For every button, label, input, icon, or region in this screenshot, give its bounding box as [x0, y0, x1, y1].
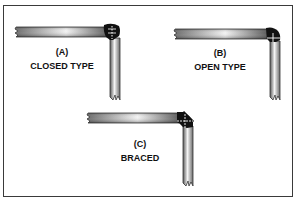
panel-c-letter: (C) [100, 139, 180, 150]
horizontal-member [15, 27, 108, 37]
panel-a-letter: (A) [22, 47, 102, 58]
panel-b-letter: (B) [180, 48, 260, 59]
panel-c-label: (C) BRACED [100, 139, 180, 164]
corner-joints-diagram [0, 0, 299, 205]
panel-b-label: (B) OPEN TYPE [180, 48, 260, 73]
vertical-member [110, 38, 120, 100]
panel-a-caption: CLOSED TYPE [22, 61, 102, 72]
closed-joint [104, 24, 120, 40]
horizontal-member [174, 29, 267, 39]
panel-a-label: (A) CLOSED TYPE [22, 47, 102, 72]
braced-joint [177, 112, 193, 128]
horizontal-member [87, 113, 179, 123]
panel-b-caption: OPEN TYPE [180, 62, 260, 73]
panel-c-caption: BRACED [100, 153, 180, 164]
vertical-member [270, 41, 280, 100]
vertical-member [183, 126, 193, 186]
open-joint [266, 27, 281, 42]
